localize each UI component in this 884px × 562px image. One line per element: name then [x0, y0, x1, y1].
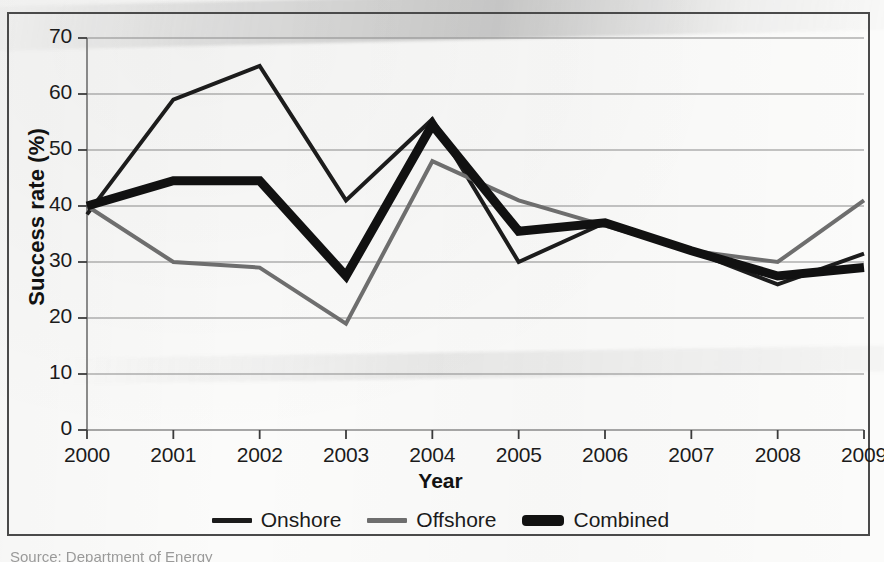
gridlines — [87, 38, 864, 430]
y-tick-label: 10 — [20, 360, 72, 384]
chart-page: 706050403020100 200020012002200320042005… — [0, 0, 884, 562]
x-tick-label: 2007 — [646, 443, 736, 467]
x-tick-label: 2005 — [474, 443, 564, 467]
tick-marks — [78, 38, 864, 439]
y-axis-title: Success rate (%) — [24, 97, 50, 337]
x-axis-title: Year — [9, 469, 872, 493]
legend-swatch-combined-icon — [522, 515, 564, 526]
series-line-combined — [87, 125, 864, 276]
legend-item-onshore[interactable]: Onshore — [212, 508, 342, 532]
x-tick-label: 2000 — [42, 443, 132, 467]
series-line-offshore — [87, 161, 864, 323]
y-tick-label: 70 — [20, 24, 72, 48]
y-tick-label: 0 — [20, 416, 72, 440]
chart-frame: 706050403020100 200020012002200320042005… — [7, 12, 870, 536]
x-tick-label: 2006 — [560, 443, 650, 467]
legend-item-combined[interactable]: Combined — [522, 508, 669, 532]
legend-item-offshore[interactable]: Offshore — [367, 508, 496, 532]
legend-swatch-onshore-icon — [212, 518, 252, 523]
legend-label-onshore: Onshore — [261, 508, 342, 532]
x-tick-label: 2008 — [733, 443, 823, 467]
x-tick-label: 2001 — [128, 443, 218, 467]
series-lines — [87, 66, 864, 324]
legend-label-combined: Combined — [573, 508, 669, 532]
x-tick-label: 2003 — [301, 443, 391, 467]
x-tick-label: 2002 — [215, 443, 305, 467]
source-note: Source: Department of Energy — [10, 548, 213, 562]
chart-legend: Onshore Offshore Combined — [9, 508, 872, 532]
legend-swatch-offshore-icon — [367, 518, 407, 523]
x-tick-label: 2004 — [387, 443, 477, 467]
legend-label-offshore: Offshore — [416, 508, 496, 532]
x-tick-label: 2009 — [819, 443, 884, 467]
